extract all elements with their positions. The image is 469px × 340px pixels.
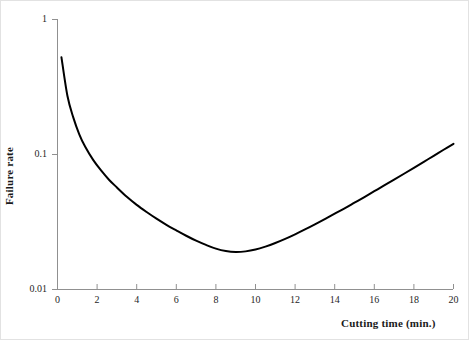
- failure-rate-curve: [61, 57, 453, 252]
- y-ticks: [52, 20, 57, 290]
- x-tick-label-10: 10: [251, 295, 261, 305]
- x-tick-label-4: 4: [134, 295, 139, 305]
- y-tick-label-0-1: 0.1: [13, 149, 47, 159]
- x-tick-label-12: 12: [290, 295, 300, 305]
- plot-canvas: [1, 1, 469, 340]
- x-tick-label-20: 20: [449, 295, 459, 305]
- y-tick-label-0-01: 0.01: [13, 284, 47, 294]
- x-tick-label-0: 0: [55, 295, 60, 305]
- x-tick-label-16: 16: [369, 295, 379, 305]
- x-tick-label-8: 8: [213, 295, 218, 305]
- x-tick-label-18: 18: [409, 295, 419, 305]
- x-tick-label-2: 2: [95, 295, 100, 305]
- y-tick-label-1: 1: [13, 14, 47, 24]
- x-ticks: [58, 284, 454, 289]
- chart-figure: 1 0.1 0.01 0 2 4 6 8 10 12 14 16 18 20 F…: [0, 0, 469, 340]
- y-axis-title: Failure rate: [3, 147, 15, 205]
- x-tick-label-6: 6: [174, 295, 179, 305]
- x-axis-title: Cutting time (min.): [341, 317, 436, 329]
- x-tick-label-14: 14: [330, 295, 340, 305]
